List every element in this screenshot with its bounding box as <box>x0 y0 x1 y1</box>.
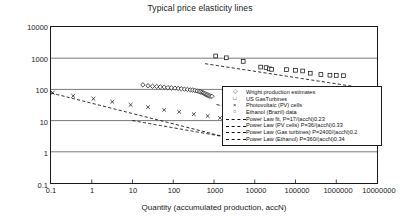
chart-title: Typical price elasticity lines <box>0 3 400 13</box>
x-tick-label-6: 100000 <box>284 186 309 195</box>
legend-marker-dashed-line-icon <box>226 129 246 135</box>
x-tick-label-5: 10000 <box>246 186 267 195</box>
x-tick-label-1: 1 <box>90 186 94 195</box>
x-tick-label-0: 0.1 <box>46 186 56 195</box>
dashed-line-icon <box>226 119 246 120</box>
dashed-line-icon <box>226 132 246 133</box>
legend-marker-x-cross-icon: × <box>226 102 246 108</box>
legend-item-label: Wright production estimates <box>246 89 315 95</box>
legend-item-label: Photovoltaic (PV) cells <box>246 102 302 108</box>
legend-marker-dashed-line-icon <box>226 122 246 128</box>
legend-marker-open-diamond-icon: ◇ <box>226 89 246 95</box>
y-tick-label-5: 10000 <box>27 23 48 32</box>
y-tick-label-1: 1 <box>44 149 48 158</box>
legend-item-label: Power Law (PV cells) P=36/(accN)0.33 <box>246 122 343 128</box>
legend-item: Power Law fit, P=17/(accN)0.23 <box>226 116 379 122</box>
legend-item: Power Law (PV cells) P=36/(accN)0.33 <box>226 122 379 128</box>
legend-item-label: US GasTurbines <box>246 96 287 102</box>
legend-item-label: Power Law (Gas turbines) P=2400/(accN)0.… <box>246 129 357 135</box>
x-tick-label-4: 1000 <box>207 186 224 195</box>
dashed-line-icon <box>226 126 246 127</box>
legend-item: ◇Wright production estimates <box>226 89 379 95</box>
legend-item: ○Ethanol (Brazil) data <box>226 109 379 115</box>
x-axis-label: Quantity (accumulated production, accN) <box>50 203 378 212</box>
legend-item: Power Law (Ethanol) P=360/(accN)0.34 <box>226 136 379 142</box>
x-tick-label-7: 1000000 <box>323 186 352 195</box>
legend-item-label: Ethanol (Brazil) data <box>246 109 297 115</box>
x-tick-label-3: 100 <box>168 186 181 195</box>
legend-item-label: Power Law (Ethanol) P=360/(accN)0.34 <box>246 136 345 142</box>
legend-marker-open-square-icon: □ <box>226 96 246 102</box>
dashed-line-icon <box>226 139 246 140</box>
y-tick-label-3: 100 <box>35 86 48 95</box>
legend-marker-dashed-line-icon <box>226 116 246 122</box>
chart-legend: ◇Wright production estimates□US GasTurbi… <box>222 86 382 146</box>
open-circle-icon: ○ <box>233 109 236 115</box>
x-tick-label-8: 10000000 <box>362 186 395 195</box>
legend-marker-open-circle-icon: ○ <box>226 109 246 115</box>
y-tick-label-2: 10 <box>40 117 48 126</box>
legend-item: □US GasTurbines <box>226 96 379 102</box>
legend-item: Power Law (Gas turbines) P=2400/(accN)0.… <box>226 129 379 135</box>
chart-container: Typical price elasticity lines 0.1110100… <box>0 0 400 221</box>
y-tick-label-4: 1000 <box>31 54 48 63</box>
legend-item: ×Photovoltaic (PV) cells <box>226 102 379 108</box>
x-tick-label-2: 10 <box>129 186 137 195</box>
legend-marker-dashed-line-icon <box>226 136 246 142</box>
legend-item-label: Power Law fit, P=17/(accN)0.23 <box>246 116 325 122</box>
